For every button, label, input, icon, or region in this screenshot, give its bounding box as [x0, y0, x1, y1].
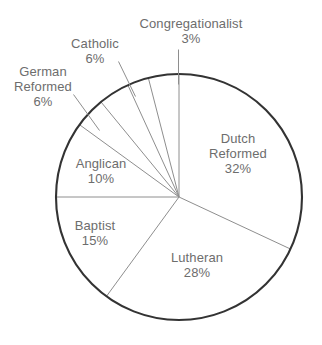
slice-label-dutch-reformed: Dutch Reformed 32%	[196, 131, 280, 176]
slice-label-german-reformed: German Reformed 6%	[2, 64, 84, 109]
slice-label-baptist-line1: Baptist	[57, 218, 133, 233]
slice-value-german-reformed: 6%	[2, 94, 84, 109]
pie-chart: Dutch Reformed 32% Lutheran 28% Baptist …	[0, 0, 322, 345]
slice-label-congregationalist: Congregationalist 3%	[130, 16, 252, 46]
slice-label-congregationalist-line1: Congregationalist	[130, 16, 252, 31]
slice-value-baptist: 15%	[57, 233, 133, 248]
slice-label-catholic-line1: Catholic	[62, 36, 128, 51]
slice-label-german-reformed-line1: German	[2, 64, 84, 79]
slice-label-catholic: Catholic 6%	[62, 36, 128, 66]
slice-label-dutch-reformed-line2: Reformed	[196, 146, 280, 161]
slice-label-anglican-line1: Anglican	[59, 156, 143, 171]
slice-value-lutheran: 28%	[156, 265, 238, 280]
slice-label-german-reformed-line2: Reformed	[2, 79, 84, 94]
slice-label-lutheran-line1: Lutheran	[156, 250, 238, 265]
slice-value-anglican: 10%	[59, 171, 143, 186]
slice-label-lutheran: Lutheran 28%	[156, 250, 238, 280]
slice-value-dutch-reformed: 32%	[196, 161, 280, 176]
slice-value-catholic: 6%	[62, 51, 128, 66]
slice-label-anglican: Anglican 10%	[59, 156, 143, 186]
slice-label-dutch-reformed-line1: Dutch	[196, 131, 280, 146]
slice-value-congregationalist: 3%	[130, 31, 252, 46]
slice-label-baptist: Baptist 15%	[57, 218, 133, 248]
